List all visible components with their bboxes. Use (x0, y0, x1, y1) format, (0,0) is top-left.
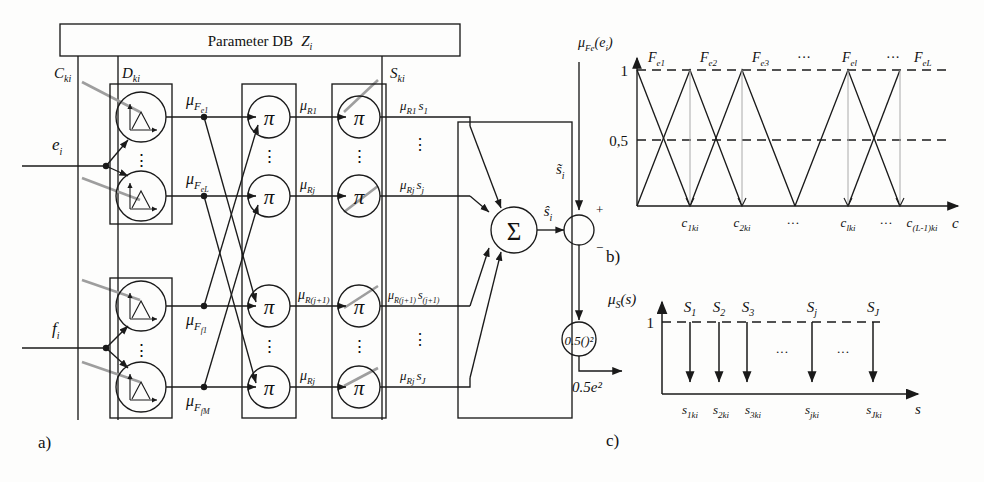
panel-b-set-ellipsis-1: ··· (797, 50, 811, 65)
param-feed-lines (82, 80, 378, 386)
panel-b-xtick-1: c2ki (734, 215, 751, 233)
panel-c-xtick-2: s3ki (745, 402, 762, 420)
label-mu-FfM: μFfM (185, 392, 211, 416)
converge-j1 (470, 248, 489, 306)
panel-b-xlabel: c (952, 215, 959, 231)
input-branch-f1 (106, 326, 128, 348)
pi-symbol-2-1: π (264, 106, 275, 130)
label-mu-R1: μR1 (299, 98, 317, 116)
input-branch-eL (106, 166, 128, 176)
label-mu-Rj-sj: μRjsj (399, 177, 425, 195)
parameter-db-label: Parameter DBZi (208, 33, 313, 52)
label-s-hat: ŝi (544, 203, 553, 223)
label-s-tilde: s̃i (556, 161, 565, 181)
panel-c: μS(s) 1 s S1 S2 S3 Sj SJ ··· ··· s1ki s2… (606, 291, 921, 450)
label-mu-Rj: μRj (299, 177, 316, 195)
panel-b-ytick-1: 1 (621, 63, 629, 79)
input-branch-e1 (106, 140, 128, 166)
panel-c-set-label-3: Sj (807, 299, 818, 318)
label-s-ki: Ski (390, 65, 405, 84)
panel-b-caption: b) (606, 247, 620, 266)
input-branch-fM (106, 348, 128, 368)
panel-c-caption: c) (606, 431, 619, 450)
comparator-node (564, 215, 594, 245)
pi-vdots-3-bottom: ⋮ (351, 337, 368, 356)
pi-symbol-3-j1: π (354, 295, 365, 319)
label-mu-Rj1: μR(j+1) (297, 287, 330, 305)
panel-b-set-label-1: Fe2 (699, 50, 718, 68)
out-route-1 (380, 117, 470, 126)
panel-a: Parameter DBZi Cki Dki Ski (22, 24, 622, 452)
pi-symbol-3-j: π (354, 185, 365, 209)
pi-symbol-3-J: π (354, 376, 365, 400)
panel-c-ylabel: μS(s) (607, 291, 636, 310)
label-mu-Rj1-sj1: μR(j+1)s(j+1) (387, 288, 440, 305)
pi-vdots-3-top: ⋮ (351, 147, 368, 166)
input-label-e: ei (52, 135, 63, 157)
pi-vdots-2-top: ⋮ (261, 147, 278, 166)
comparator-plus: + (596, 202, 603, 217)
label-mu-RJ-sJ: μRjsJ (399, 368, 427, 386)
label-c-ki: Cki (54, 65, 71, 84)
output-box (458, 122, 572, 418)
figure-root: Parameter DBZi Cki Dki Ski (0, 0, 984, 482)
label-mu-R1-s1: μR1s1 (399, 98, 428, 116)
panel-c-set-label-2: S3 (742, 299, 755, 318)
panel-b-set-label-2: Fe3 (751, 50, 770, 68)
mf-vdots-e: ⋮ (133, 151, 150, 170)
converge-J (470, 252, 501, 378)
panel-a-caption: a) (38, 433, 51, 452)
panel-c-ellipsis-2: ··· (837, 344, 850, 359)
label-mu-FeL: μFeL (185, 170, 209, 194)
panel-b-xtick-3: clki (841, 215, 856, 233)
cross-e1-pij1 (204, 117, 256, 302)
panel-c-set-label-1: S2 (713, 299, 726, 318)
out-vdots-top: ⋮ (412, 136, 428, 153)
pi-vdots-2-bottom: ⋮ (261, 337, 278, 356)
mf-circle-eL (116, 171, 166, 221)
panel-b-peak-verticals (690, 70, 900, 206)
panel-b-xtick-2: ··· (787, 215, 800, 230)
pi-symbol-2-j1: π (264, 295, 275, 319)
panel-b-xtick-0: c1ki (682, 215, 699, 233)
pi-symbol-2-j: π (264, 185, 275, 209)
label-mu-Fe1: μFe1 (185, 91, 208, 115)
panel-c-xtick-1: s2ki (713, 402, 730, 420)
panel-b: μFe(ei) 1 0,5 c Fe1 Fe2 Fe3 ··· Fel ··· … (577, 35, 959, 266)
mf-circle-e1 (116, 92, 166, 142)
panel-b-ylabel: μFe(ei) (577, 35, 613, 53)
converge-1 (470, 126, 501, 208)
cross-eL-piJ (204, 196, 256, 383)
figure-svg: Parameter DBZi Cki Dki Ski (0, 0, 984, 482)
square-node-label: 0.5()² (565, 333, 595, 348)
panel-c-ytick-1: 1 (647, 315, 655, 331)
panel-c-set-label-4: SJ (867, 299, 880, 318)
panel-c-set-label-0: S1 (684, 299, 697, 318)
sum-symbol: Σ (507, 218, 522, 245)
label-error-output: 0.5e² (572, 379, 602, 395)
panel-c-xlabel: s (915, 401, 921, 417)
panel-c-xtick-0: s1ki (682, 402, 699, 420)
label-d-ki: Dki (121, 65, 140, 84)
label-mu-RJ: μRj (299, 368, 316, 386)
out-vdots-bottom: ⋮ (412, 331, 428, 348)
pi-layer2-box (242, 84, 296, 418)
input-label-f: fi (52, 319, 60, 341)
panel-c-ellipsis-1: ··· (776, 344, 789, 359)
mf-circle-f1 (116, 281, 166, 331)
panel-c-xtick-4: sJki (866, 402, 882, 420)
panel-b-set-label-4: Fel (841, 50, 858, 68)
panel-b-set-label-6: FeL (913, 50, 932, 68)
converge-j (470, 196, 489, 212)
pi-symbol-3-1: π (354, 106, 365, 130)
mf-circle-fM (116, 362, 166, 412)
mf-vdots-f: ⋮ (133, 341, 150, 360)
label-mu-Ff1: μFf1 (185, 311, 207, 335)
panel-b-ytick-half: 0,5 (609, 133, 628, 149)
panel-c-xtick-3: sjki (805, 402, 820, 420)
panel-b-xtick-5: c(L-1)ki (907, 215, 938, 233)
panel-b-set-label-0: Fe1 (647, 50, 665, 68)
error-output-line (579, 356, 622, 371)
comparator-minus: − (596, 240, 603, 255)
panel-b-xtick-4: ··· (880, 215, 893, 230)
